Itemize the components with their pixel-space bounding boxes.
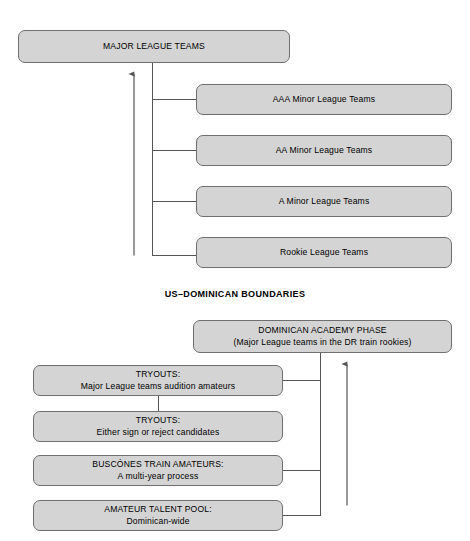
node-label: A Minor League Teams bbox=[279, 196, 370, 208]
node-label-line1: BUSCÓNES TRAIN AMATEURS: bbox=[92, 459, 223, 471]
node-tryouts-sign-or-reject[interactable]: TRYOUTS: Either sign or reject candidate… bbox=[33, 411, 283, 442]
section-caption-us-dominican-boundaries: US–DOMINICAN BOUNDARIES bbox=[0, 289, 470, 299]
node-label-line1: AMATEUR TALENT POOL: bbox=[104, 504, 211, 516]
node-label: MAJOR LEAGUE TEAMS bbox=[103, 41, 205, 53]
node-label: AAA Minor League Teams bbox=[273, 94, 376, 106]
node-label-line2: Major League teams audition amateurs bbox=[81, 381, 235, 393]
node-rookie-league-teams[interactable]: Rookie League Teams bbox=[196, 237, 452, 268]
node-label-line2: Either sign or reject candidates bbox=[97, 427, 220, 439]
node-amateur-talent-pool[interactable]: AMATEUR TALENT POOL: Dominican-wide bbox=[33, 500, 283, 531]
node-label: Rookie League Teams bbox=[280, 247, 368, 259]
node-dominican-academy-phase[interactable]: DOMINICAN ACADEMY PHASE (Major League te… bbox=[193, 320, 452, 353]
diagram-canvas: MAJOR LEAGUE TEAMS AAA Minor League Team… bbox=[0, 0, 470, 541]
node-a-minor-league-teams[interactable]: A Minor League Teams bbox=[196, 186, 452, 217]
node-label-line2: Dominican-wide bbox=[126, 516, 189, 528]
node-label-line2: A multi-year process bbox=[118, 471, 199, 483]
node-major-league-teams[interactable]: MAJOR LEAGUE TEAMS bbox=[18, 30, 290, 63]
node-aaa-minor-league-teams[interactable]: AAA Minor League Teams bbox=[196, 84, 452, 115]
node-label: AA Minor League Teams bbox=[276, 145, 373, 157]
node-label-line1: TRYOUTS: bbox=[136, 369, 181, 381]
node-label-line2: (Major League teams in the DR train rook… bbox=[233, 337, 411, 349]
node-buscones-train-amateurs[interactable]: BUSCÓNES TRAIN AMATEURS: A multi-year pr… bbox=[33, 455, 283, 486]
node-aa-minor-league-teams[interactable]: AA Minor League Teams bbox=[196, 135, 452, 166]
node-label-line1: DOMINICAN ACADEMY PHASE bbox=[258, 325, 386, 337]
node-label-line1: TRYOUTS: bbox=[136, 415, 181, 427]
section-caption-label: US–DOMINICAN BOUNDARIES bbox=[165, 289, 306, 299]
node-tryouts-audition[interactable]: TRYOUTS: Major League teams audition ama… bbox=[33, 365, 283, 396]
